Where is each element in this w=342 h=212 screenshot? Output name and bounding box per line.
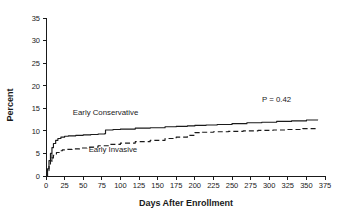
kaplan-meier-figure: 05101520253035 0255075100125150175200225… bbox=[0, 0, 342, 212]
y-tick-label-30: 30 bbox=[32, 36, 40, 45]
x-tick-label-100: 100 bbox=[114, 181, 127, 190]
y-tick-label-35: 35 bbox=[32, 14, 40, 23]
x-tick-label-25: 25 bbox=[60, 181, 68, 190]
x-axis-ticks bbox=[46, 176, 325, 180]
y-axis-tick-labels: 05101520253035 bbox=[32, 14, 40, 181]
x-tick-label-50: 50 bbox=[79, 181, 87, 190]
y-tick-label-0: 0 bbox=[36, 172, 40, 181]
x-tick-label-225: 225 bbox=[207, 181, 220, 190]
chart-canvas: 05101520253035 0255075100125150175200225… bbox=[0, 0, 342, 212]
y-axis-title: Percent bbox=[5, 88, 15, 121]
x-tick-label-375: 375 bbox=[319, 181, 332, 190]
x-axis-title: Days After Enrollment bbox=[139, 198, 233, 208]
x-tick-label-0: 0 bbox=[44, 181, 48, 190]
x-tick-label-275: 275 bbox=[244, 181, 257, 190]
x-tick-label-300: 300 bbox=[263, 181, 276, 190]
annotation-early-conservative: Early Conservative bbox=[73, 108, 138, 117]
x-tick-label-200: 200 bbox=[189, 181, 202, 190]
x-tick-label-325: 325 bbox=[282, 181, 295, 190]
annotation-p-0-42: P = 0.42 bbox=[262, 95, 291, 104]
x-axis-tick-labels: 0255075100125150175200225250275300325350… bbox=[44, 181, 331, 190]
data-series-group bbox=[46, 120, 318, 176]
annotation-early-invasive: Early Invasive bbox=[89, 145, 138, 154]
x-tick-label-350: 350 bbox=[300, 181, 313, 190]
y-tick-label-10: 10 bbox=[32, 127, 40, 136]
y-tick-label-5: 5 bbox=[36, 149, 40, 158]
x-tick-label-175: 175 bbox=[170, 181, 183, 190]
x-tick-label-150: 150 bbox=[151, 181, 164, 190]
y-tick-label-15: 15 bbox=[32, 104, 40, 113]
x-tick-label-75: 75 bbox=[98, 181, 106, 190]
x-tick-label-250: 250 bbox=[226, 181, 239, 190]
y-tick-label-25: 25 bbox=[32, 59, 40, 68]
x-tick-label-125: 125 bbox=[133, 181, 146, 190]
y-tick-label-20: 20 bbox=[32, 82, 40, 91]
chart-annotations: P = 0.42Early ConservativeEarly Invasive bbox=[73, 95, 291, 154]
